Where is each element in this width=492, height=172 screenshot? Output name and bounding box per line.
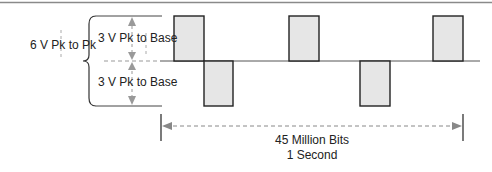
ami-signal-diagram [0, 0, 492, 172]
arrow-head-up-icon [128, 62, 136, 70]
pulse-positive [174, 16, 204, 61]
arrow-head-right-icon [452, 122, 462, 130]
time-label: 1 Second [262, 148, 362, 162]
brace-icon [83, 16, 96, 106]
arrow-head-down-icon [128, 96, 136, 105]
peak-to-peak-label: 6 V Pk to Pk [30, 38, 96, 52]
upper-amplitude-label: 3 V Pk to Base [98, 31, 177, 45]
pulse-positive [289, 16, 319, 61]
arrow-head-left-icon [162, 122, 172, 130]
bits-label: 45 Million Bits [262, 133, 362, 147]
arrow-head-down-icon [128, 52, 136, 60]
arrow-head-up-icon [128, 17, 136, 26]
lower-amplitude-label: 3 V Pk to Base [98, 75, 177, 89]
pulse-negative [360, 61, 390, 106]
pulse-positive [433, 16, 463, 61]
pulse-negative [204, 61, 233, 106]
